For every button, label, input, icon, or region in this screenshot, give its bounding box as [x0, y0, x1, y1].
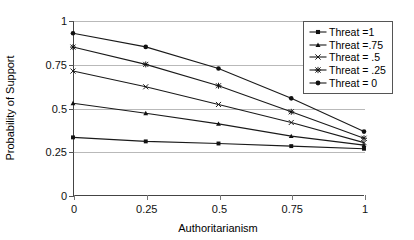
data-point-star [143, 61, 149, 67]
data-point-star [70, 44, 76, 50]
x-tick-label: 1 [362, 203, 368, 215]
data-point-square [316, 30, 320, 34]
legend-label: Threat = 0 [328, 77, 377, 89]
x-axis-tick [365, 195, 366, 200]
legend-marker-star-icon [308, 64, 328, 76]
y-tick-label: 0.5 [52, 103, 67, 115]
data-point-circle [316, 80, 321, 85]
legend-marker-circle-icon [308, 77, 328, 89]
data-point-circle [216, 66, 221, 71]
legend-item[interactable]: Threat =.75 [308, 39, 386, 52]
legend-marker-x-icon [308, 51, 328, 63]
legend-label: Threat = .5 [328, 51, 380, 63]
x-tick-label: 0.25 [136, 203, 157, 215]
series-0 [71, 135, 366, 150]
data-point-circle [362, 129, 367, 134]
data-point-circle [289, 96, 294, 101]
data-point-square [289, 144, 293, 148]
data-point-star [361, 135, 367, 141]
data-point-square [362, 147, 366, 151]
y-tick-label: 0 [61, 190, 67, 202]
data-point-square [71, 135, 75, 139]
legend-item[interactable]: Threat =1 [308, 26, 386, 39]
legend-item[interactable]: Threat = .25 [308, 64, 386, 77]
data-point-circle [71, 31, 76, 36]
data-point-star [315, 67, 321, 73]
legend-label: Threat =.75 [328, 39, 383, 51]
legend: Threat =1Threat =.75Threat = .5Threat = … [303, 21, 393, 94]
legend-marker-square-icon [308, 26, 328, 38]
data-point-square [217, 142, 221, 146]
legend-label: Threat =1 [328, 26, 374, 38]
legend-label: Threat = .25 [328, 64, 386, 76]
x-tick-label: 0.75 [282, 203, 303, 215]
y-axis-title: Probability of Support [4, 55, 16, 160]
legend-item[interactable]: Threat = .5 [308, 51, 386, 64]
data-point-star [288, 109, 294, 115]
y-tick-label: 0.75 [46, 59, 67, 71]
data-point-square [144, 139, 148, 143]
legend-marker-triangle-icon [308, 39, 328, 51]
data-point-star [216, 83, 222, 89]
y-tick-label: 1 [61, 15, 67, 27]
data-point-circle [143, 45, 148, 50]
x-tick-label: 0.5 [212, 203, 227, 215]
legend-item[interactable]: Threat = 0 [308, 76, 386, 89]
x-tick-label: 0 [71, 203, 77, 215]
y-tick-label: 0.25 [46, 146, 67, 158]
chart-container: Probability of Support Authoritarianism … [0, 0, 414, 240]
x-axis-title: Authoritarianism [178, 222, 257, 234]
